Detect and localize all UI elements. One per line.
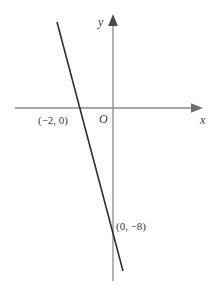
origin-label: O [99,112,108,126]
x-intercept-label: (−2, 0) [38,114,68,127]
coordinate-plane-figure: y x O (−2, 0) (0, −8) [0,0,217,294]
x-axis-arrowhead [191,103,203,113]
y-axis-arrowhead [108,14,118,26]
y-axis-label: y [97,15,104,29]
y-intercept-label: (0, −8) [116,220,146,233]
x-axis-label: x [199,113,206,127]
graph-canvas: y x O (−2, 0) (0, −8) [0,0,217,294]
